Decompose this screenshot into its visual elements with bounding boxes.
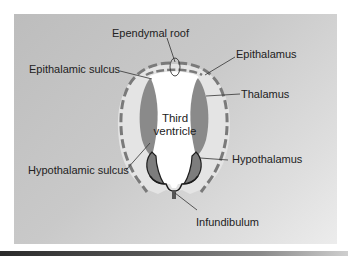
- label-ependymal-roof: Ependymal roof: [112, 27, 189, 39]
- label-third-ventricle-line2: ventricle: [145, 125, 205, 138]
- label-epithalamus: Epithalamus: [236, 48, 297, 60]
- label-third-ventricle-line1: Third: [145, 112, 205, 125]
- label-infundibulum: Infundibulum: [196, 216, 259, 228]
- label-hypothalamic-sulcus: Hypothalamic sulcus: [28, 164, 129, 176]
- label-epithalamic-sulcus: Epithalamic sulcus: [29, 63, 120, 75]
- label-third-ventricle: Third ventricle: [145, 112, 205, 138]
- infundibulum-stalk: [172, 190, 176, 199]
- label-thalamus: Thalamus: [241, 88, 289, 100]
- label-hypothalamus: Hypothalamus: [232, 153, 302, 165]
- leader-infundibulum: [175, 193, 197, 210]
- leader-epithalamus: [205, 57, 235, 75]
- leader-ependymal-roof: [167, 38, 175, 62]
